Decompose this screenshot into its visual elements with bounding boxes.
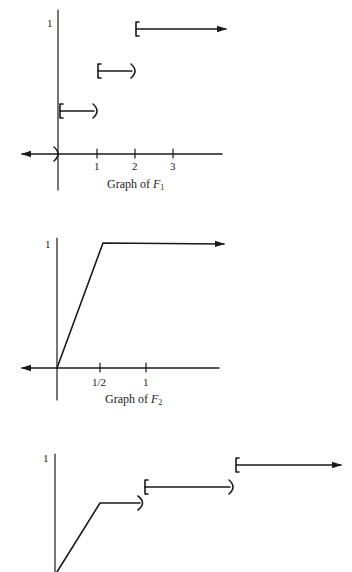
- y-tick-label: 1: [45, 238, 51, 250]
- x-tick-label: 1: [143, 376, 149, 388]
- cdf-curve: [57, 243, 224, 368]
- x-ticks: 1/2 1: [92, 363, 149, 388]
- cdf-figure: 1 1 2 3 Graph of F1: [0, 0, 352, 572]
- caption: Graph of F2: [105, 392, 162, 407]
- graph-f1: 1 1 2 3 Graph of F1: [22, 10, 226, 192]
- step-segment: [136, 22, 226, 36]
- y-tick-label: 1: [47, 17, 53, 29]
- graph-f2: 1 1/2 1 Graph of F2: [22, 238, 224, 407]
- x-tick-label: 1: [94, 160, 100, 172]
- step-segment: [236, 458, 341, 472]
- caption: Graph of F1: [107, 177, 164, 192]
- x-tick-label: 1/2: [92, 376, 106, 388]
- step-segment: [145, 480, 233, 494]
- step-segment: [60, 104, 97, 118]
- x-tick-label: 2: [132, 160, 138, 172]
- step-segment: [98, 64, 135, 78]
- y-tick-label: 1: [43, 452, 49, 464]
- graph-f3: 1: [43, 452, 341, 572]
- cdf-curve: [57, 503, 140, 572]
- x-tick-label: 3: [170, 160, 176, 172]
- x-ticks: 1 2 3: [94, 149, 176, 172]
